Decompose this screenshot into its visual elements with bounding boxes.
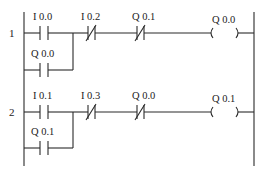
contact-label: Q 0.0 [31, 48, 54, 59]
contact-nc-icon [135, 104, 211, 120]
ladder-diagram: 1 I 0.0 Q 0.0 I 0.2 [0, 0, 266, 178]
contact-nc-icon [73, 104, 137, 120]
contact-label: Q 0.1 [132, 11, 155, 22]
contact-label: I 0.1 [33, 90, 52, 101]
rung-1: 1 I 0.0 Q 0.0 I 0.2 [9, 11, 254, 77]
rung-number: 1 [9, 27, 15, 39]
contact-no-icon [24, 105, 73, 119]
coil-label: Q 0.1 [212, 93, 235, 104]
rung-2: 2 I 0.1 Q 0.1 I 0.3 [9, 90, 254, 155]
contact-label: Q 0.0 [132, 90, 155, 101]
coil-icon [211, 28, 254, 38]
contact-label: Q 0.1 [31, 126, 54, 137]
rung-number: 2 [9, 106, 15, 118]
contact-nc-icon [73, 25, 137, 41]
contact-label: I 0.0 [33, 11, 52, 22]
coil-label: Q 0.0 [212, 14, 235, 25]
contact-nc-icon [135, 25, 211, 41]
contact-label: I 0.2 [81, 11, 100, 22]
coil-icon [211, 107, 254, 117]
contact-label: I 0.3 [81, 90, 100, 101]
contact-no-icon [24, 26, 73, 40]
